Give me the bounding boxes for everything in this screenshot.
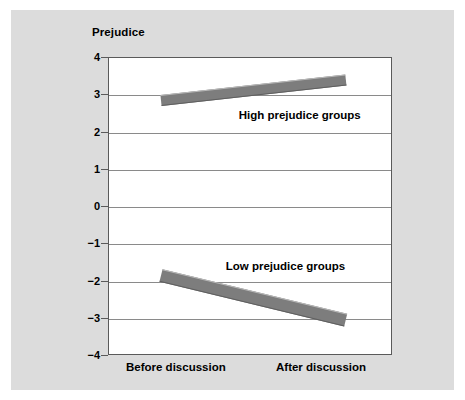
gridline (109, 244, 391, 245)
x-tick-label: Before discussion (126, 361, 226, 373)
y-tick-mark (101, 94, 108, 95)
series-label-low-prejudice: Low prejudice groups (226, 260, 345, 272)
y-tick-mark (101, 318, 108, 319)
y-tick-label: 4 (76, 52, 100, 63)
y-tick-mark (101, 169, 108, 170)
series-label-high-prejudice: High prejudice groups (239, 109, 361, 121)
y-tick-mark (101, 132, 108, 133)
y-tick-label: −4 (76, 350, 100, 361)
y-tick-mark (101, 243, 108, 244)
plot-area: High prejudice groups Low prejudice grou… (108, 57, 392, 355)
y-tick-mark (101, 355, 108, 356)
x-tick-label: After discussion (276, 361, 366, 373)
y-tick-label: −2 (76, 276, 100, 287)
y-tick-mark (101, 206, 108, 207)
y-tick-mark (101, 281, 108, 282)
y-axis-title: Prejudice (92, 26, 145, 38)
y-tick-label: 3 (76, 89, 100, 100)
y-tick-label: −1 (76, 238, 100, 249)
gridline (109, 282, 391, 283)
y-tick-label: 1 (76, 164, 100, 175)
gridline (109, 207, 391, 208)
y-tick-mark (101, 57, 108, 58)
series-band-high-prejudice (160, 75, 346, 106)
y-tick-label: 0 (76, 201, 100, 212)
gridline (109, 133, 391, 134)
gridline (109, 319, 391, 320)
chart-figure: Prejudice 43210−1−2−3−4 High prejudice g… (0, 0, 465, 400)
y-tick-label: 2 (76, 127, 100, 138)
y-tick-label: −3 (76, 313, 100, 324)
gridline (109, 170, 391, 171)
